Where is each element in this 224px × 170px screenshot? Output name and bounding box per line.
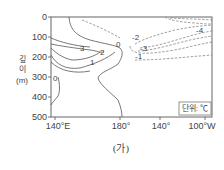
- x-tick-180: 180°: [112, 121, 131, 131]
- svg-text:1: 1: [90, 58, 95, 67]
- y-tick-300: 300: [32, 72, 47, 82]
- y-tick-100: 100: [32, 32, 47, 42]
- svg-text:이: 이: [19, 64, 26, 74]
- contour-labels: 3 2 1 0 0 -1 -2 -3 -4: [53, 26, 204, 83]
- x-tick-140w: 140°: [152, 121, 171, 131]
- svg-text:0: 0: [53, 74, 58, 83]
- x-axis: 140°E 180° 140° 100°W: [46, 117, 216, 131]
- y-tick-200: 200: [32, 52, 47, 62]
- y-tick-0: 0: [42, 12, 47, 22]
- chart: 0 100 200 300 400 500 깊 이 (m) 140°E 180°…: [0, 0, 224, 170]
- svg-text:(m): (m): [16, 76, 28, 85]
- svg-text:3: 3: [80, 44, 85, 53]
- svg-text:0: 0: [116, 40, 121, 49]
- unit-label-box: 단위: ℃: [179, 102, 211, 115]
- x-tick-140e: 140°E: [46, 121, 71, 131]
- positive-contours: [51, 17, 122, 117]
- svg-text:-4: -4: [196, 26, 204, 35]
- svg-text:단위: ℃: 단위: ℃: [182, 103, 208, 113]
- x-tick-100w: 100°W: [188, 121, 216, 131]
- y-axis: 0 100 200 300 400 500: [32, 12, 51, 122]
- svg-text:깊: 깊: [19, 54, 26, 64]
- svg-text:-1: -1: [135, 52, 143, 61]
- svg-text:-3: -3: [140, 44, 148, 53]
- y-axis-label: 깊 이 (m): [16, 54, 28, 85]
- figure-caption: (가): [113, 143, 130, 154]
- svg-text:-2: -2: [132, 33, 140, 42]
- y-tick-400: 400: [32, 92, 47, 102]
- svg-text:2: 2: [100, 48, 105, 57]
